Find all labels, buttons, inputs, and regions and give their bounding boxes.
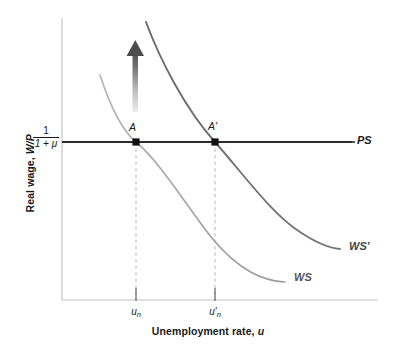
point-marker-a-prime [211, 138, 218, 145]
ws-curve [100, 75, 285, 282]
curve-label-ws: WS [294, 272, 312, 283]
fraction-numerator: 1 [31, 126, 61, 137]
fraction-denominator: 1 + μ [31, 138, 61, 149]
tick-unp-subscript: n [217, 310, 221, 319]
tick-un-base: u [131, 306, 137, 317]
curve-label-ws-prime: WS′ [349, 241, 369, 252]
shift-arrow-icon [127, 40, 144, 112]
ws-prime-curve [146, 22, 340, 249]
x-axis-title: Unemployment rate, u [118, 326, 298, 337]
y-axis-value-label: 1 1 + μ [31, 126, 61, 149]
x-axis-title-variable: u [258, 325, 265, 337]
y-axis-title: Real wage, W/P [25, 98, 36, 248]
point-label-a: A [129, 122, 136, 133]
x-tick-label-un: un [121, 307, 151, 317]
tick-un-subscript: n [137, 310, 141, 319]
point-marker-a [132, 138, 139, 145]
x-tick-label-un-prime: u′n [200, 307, 230, 317]
wage-price-setting-figure: Real wage, W/P Unemployment rate, u 1 1 … [0, 0, 398, 346]
point-label-a-prime: A′ [208, 121, 217, 132]
x-axis-title-text: Unemployment rate, [152, 325, 258, 337]
curve-label-ps: PS [357, 135, 372, 146]
y-axis-title-text: Real wage, [24, 154, 36, 212]
chart-canvas [0, 0, 398, 346]
